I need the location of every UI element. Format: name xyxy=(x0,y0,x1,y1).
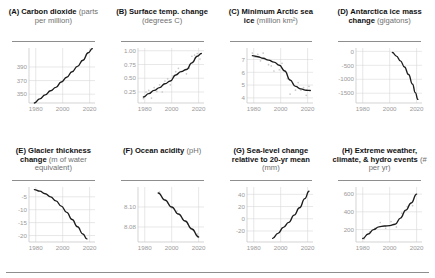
data-point xyxy=(379,222,381,224)
plot-area: 4567198020002020 xyxy=(222,44,321,139)
panel-a-header: (A) Carbon dioxide (parts per million) xyxy=(4,8,103,38)
data-point xyxy=(295,89,297,91)
x-tick-label: 2020 xyxy=(409,105,423,112)
panel-c: (C) Minimum Arctic sea ice (million km²)… xyxy=(218,0,327,139)
y-tick-label: 4 xyxy=(241,94,245,101)
y-tick-label: -1000 xyxy=(338,75,354,82)
data-point xyxy=(143,98,145,100)
x-tick-label: 1980 xyxy=(355,244,369,251)
figure-bottom-rule xyxy=(6,272,429,273)
y-tick-label: 20 xyxy=(238,203,245,210)
x-tick-label: 2000 xyxy=(382,244,396,251)
data-point xyxy=(289,93,291,95)
data-point xyxy=(145,91,147,93)
y-tick-label: 400 xyxy=(343,208,354,215)
panel-f: (F) Ocean acidity (pH)8.088.101980200020… xyxy=(109,139,218,278)
panel-units: (mm) xyxy=(262,163,280,172)
data-point xyxy=(259,60,261,62)
panel-rule xyxy=(338,180,421,181)
y-tick-label: 8.08 xyxy=(124,223,137,230)
x-tick-label: 2020 xyxy=(83,244,97,251)
plot-area: 0-500-1000-1500198020002020 xyxy=(330,44,429,139)
chart-d: 0-500-1000-1500198020002020 xyxy=(334,44,426,116)
x-tick-label: 1980 xyxy=(138,105,152,112)
data-point xyxy=(308,86,310,88)
data-point xyxy=(162,91,164,93)
panel-h-header: (H) Extreme weather, climate, & hydro ev… xyxy=(330,147,429,177)
panel-rule xyxy=(121,41,204,42)
data-point xyxy=(297,82,299,84)
plot-area: -2002040198020002020 xyxy=(222,183,321,278)
chart-e: -5-10-15-20198020002020 xyxy=(7,183,99,255)
data-point xyxy=(159,84,161,86)
panel-e-header: (E) Glacier thickness change (m of water… xyxy=(4,147,103,177)
chart-c: 4567198020002020 xyxy=(225,44,317,116)
data-point xyxy=(167,78,169,80)
data-point xyxy=(178,68,180,70)
panel-units: (gigatons) xyxy=(377,16,411,25)
panel-b-header: (B) Surface temp. change (degrees C) xyxy=(113,8,212,38)
data-point xyxy=(305,94,307,96)
x-tick-label: 1980 xyxy=(138,244,152,251)
data-point xyxy=(194,54,196,56)
data-point xyxy=(199,58,201,60)
plot-area: 350370390198020002020 xyxy=(4,44,103,139)
panel-units: (million km²) xyxy=(257,16,298,25)
y-tick-label: 7 xyxy=(241,56,245,63)
data-point xyxy=(251,52,253,54)
data-point xyxy=(268,64,270,66)
panel-rule xyxy=(230,180,313,181)
data-point xyxy=(176,210,178,212)
y-tick-label: 0.25 xyxy=(124,88,137,95)
data-point xyxy=(175,71,177,73)
panel-title: (A) xyxy=(9,7,20,16)
series-line xyxy=(144,54,202,97)
panel-rule xyxy=(338,41,421,42)
panel-grid: (A) Carbon dioxide (parts per million)35… xyxy=(0,0,435,278)
chart-a: 350370390198020002020 xyxy=(7,44,99,116)
chart-b: 0.250.500.751.00198020002020 xyxy=(116,44,208,116)
data-point xyxy=(197,53,199,55)
panel-f-header: (F) Ocean acidity (pH) xyxy=(113,147,212,177)
x-tick-label: 2020 xyxy=(409,244,423,251)
y-tick-label: 8.10 xyxy=(124,203,137,210)
y-tick-label: 0.50 xyxy=(124,74,137,81)
data-point xyxy=(170,84,172,86)
panel-d-header: (D) Antarctica ice mass change (gigatons… xyxy=(330,8,429,38)
x-tick-label: 2020 xyxy=(192,244,206,251)
climate-indicators-figure: (A) Carbon dioxide (parts per million)35… xyxy=(0,0,435,278)
panel-title: (C) xyxy=(229,7,240,16)
y-tick-label: 350 xyxy=(17,90,28,97)
plot-area: 0.250.500.751.00198020002020 xyxy=(113,44,212,139)
panel-a: (A) Carbon dioxide (parts per million)35… xyxy=(0,0,109,139)
chart-g: -2002040198020002020 xyxy=(225,183,317,255)
y-tick-label: 40 xyxy=(238,191,245,198)
data-point xyxy=(278,69,280,71)
y-tick-label: -20 xyxy=(18,232,28,239)
x-tick-label: 2000 xyxy=(56,244,70,251)
y-tick-label: 0 xyxy=(350,48,354,55)
panel-rule xyxy=(121,180,204,181)
x-tick-label: 1980 xyxy=(247,244,261,251)
plot-area: 200400600198020002020 xyxy=(330,183,429,278)
data-point xyxy=(401,212,403,214)
x-tick-label: 2000 xyxy=(274,105,288,112)
data-point xyxy=(390,221,392,223)
panel-b: (B) Surface temp. change (degrees C)0.25… xyxy=(109,0,218,139)
data-point xyxy=(151,97,153,99)
data-point xyxy=(191,55,193,57)
y-tick-label: 600 xyxy=(343,190,354,197)
x-tick-label: 1980 xyxy=(355,105,369,112)
data-point xyxy=(257,54,259,56)
chart-h: 200400600198020002020 xyxy=(334,183,426,255)
y-tick-label: 200 xyxy=(343,226,354,233)
data-point xyxy=(262,52,264,54)
x-tick-label: 2020 xyxy=(192,105,206,112)
chart-f: 8.088.10198020002020 xyxy=(116,183,208,255)
panel-g: (G) Sea-level change relative to 20-yr m… xyxy=(218,139,327,278)
y-tick-label: 0.75 xyxy=(124,61,137,68)
y-tick-label: 6 xyxy=(241,69,245,76)
data-point xyxy=(281,62,283,64)
data-point xyxy=(303,87,305,89)
x-tick-label: 2020 xyxy=(301,105,315,112)
